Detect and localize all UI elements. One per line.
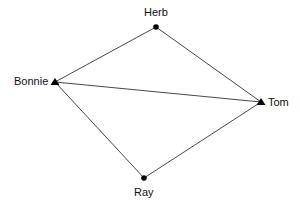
node-label-bonnie: Bonnie (14, 75, 48, 87)
edge-bonnie-ray (55, 82, 144, 178)
node-ray-circle-icon (141, 175, 147, 181)
node-bonnie-triangle-icon (51, 78, 60, 85)
node-label-ray: Ray (134, 186, 154, 198)
node-label-herb: Herb (144, 6, 168, 18)
node-herb-circle-icon (153, 24, 159, 30)
edges (55, 27, 261, 178)
edge-bonnie-tom (55, 82, 261, 102)
network-diagram (0, 0, 300, 211)
edge-herb-tom (156, 27, 261, 102)
node-label-tom: Tom (268, 96, 289, 108)
edge-tom-ray (144, 102, 261, 178)
edge-herb-bonnie (55, 27, 156, 82)
